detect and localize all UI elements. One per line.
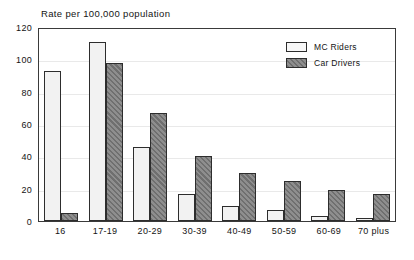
y-tick-label: 100 [16,55,32,65]
bar-car-drivers[interactable] [239,173,256,222]
x-tick-label: 50-59 [262,226,307,236]
x-tick-label: 30-39 [172,226,217,236]
bar-mc-riders[interactable] [356,218,373,221]
bar-mc-riders[interactable] [267,210,284,221]
x-tick-label: 40-49 [217,226,262,236]
chart-title: Rate per 100,000 population [41,8,170,19]
y-tick-label: 60 [21,120,32,130]
bar-mc-riders[interactable] [44,71,61,221]
legend-swatch-icon [286,58,307,68]
bar-car-drivers[interactable] [195,156,212,221]
y-axis: 020406080100120 [0,28,36,222]
bar-group [84,29,129,221]
bar-chart: Rate per 100,000 population 020406080100… [0,0,414,260]
bar-group [128,29,173,221]
bar-car-drivers[interactable] [106,63,123,221]
bar-car-drivers[interactable] [328,190,345,221]
bar-mc-riders[interactable] [89,42,106,221]
bar-mc-riders[interactable] [133,147,150,221]
x-axis: 1617-1920-2930-3940-4950-5960-6970 plus [38,226,396,236]
legend-swatch-icon [286,42,307,52]
bar-car-drivers[interactable] [61,213,78,221]
bar-group [173,29,218,221]
y-tick-label: 80 [21,88,32,98]
y-tick-label: 20 [21,185,32,195]
x-tick-label: 17-19 [83,226,128,236]
x-tick-label: 60-69 [307,226,352,236]
y-tick-label: 0 [27,217,32,227]
bar-group [217,29,262,221]
bar-car-drivers[interactable] [284,181,301,221]
bar-group [39,29,84,221]
x-tick-label: 70 plus [351,226,396,236]
chart-legend: MC RidersCar Drivers [286,42,360,68]
bar-mc-riders[interactable] [222,206,239,221]
legend-label: MC Riders [314,42,357,52]
x-tick-label: 20-29 [128,226,173,236]
bar-car-drivers[interactable] [150,113,167,221]
x-tick-label: 16 [38,226,83,236]
legend-label: Car Drivers [314,58,360,68]
bar-mc-riders[interactable] [178,194,195,221]
legend-item[interactable]: Car Drivers [286,58,360,68]
y-tick-label: 40 [21,152,32,162]
bar-car-drivers[interactable] [373,194,390,221]
y-tick-label: 120 [16,23,32,33]
bar-mc-riders[interactable] [311,216,328,221]
legend-item[interactable]: MC Riders [286,42,360,52]
